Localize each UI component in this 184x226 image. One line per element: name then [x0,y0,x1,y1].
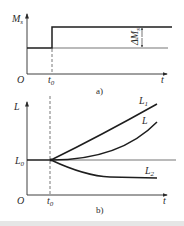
caption-a: a) [96,86,103,96]
t0-label-a: t0 [48,74,55,87]
figure-b: L L0 O t0 t L1 L L2 b) [13,95,176,215]
curve-l2 [51,160,157,178]
footer-band [0,221,184,226]
curve-l2-label: L2 [144,165,155,178]
caption-b: b) [96,205,104,215]
curve-l [51,122,157,160]
step-signal [27,27,172,48]
curve-l-label: L [141,115,148,126]
t0-label-b: t0 [47,195,54,208]
curve-l1-label: L1 [138,95,148,108]
curve-l1 [51,104,157,160]
diagram-canvas: Ms O t0 t ΔMs a) L L0 O t0 t L1 [0,0,184,226]
delta-label: ΔMs [129,28,142,46]
y-axis-label-a: Ms [11,13,23,26]
x-axis-label-b: t [163,195,166,206]
y-axis-label-b: L [13,101,20,112]
origin-label-b: O [17,195,24,206]
l0-label: L0 [14,155,25,168]
x-axis-label-a: t [161,74,164,85]
figure-a: Ms O t0 t ΔMs a) [11,13,172,96]
origin-label-a: O [17,74,24,85]
